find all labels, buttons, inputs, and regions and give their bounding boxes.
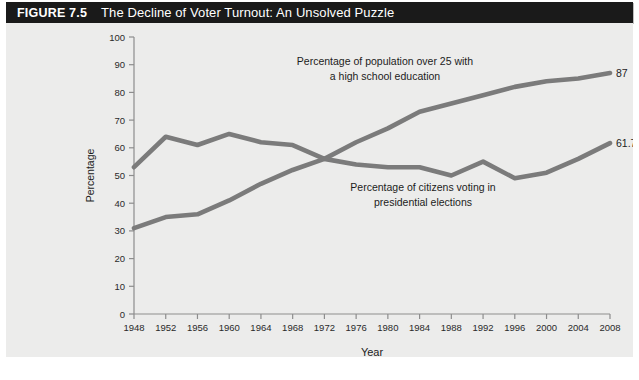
x-tick-label: 1976 [346,322,367,333]
x-tick-label: 1980 [377,322,398,333]
line-chart-svg: 0102030405060708090100Percentage 1948195… [6,23,633,357]
x-tick-label: 1968 [282,322,303,333]
education-annotation-line1: Percentage of population over 25 with [297,55,473,67]
y-tick-label: 30 [114,225,125,236]
series-line-0 [134,73,610,228]
series-line-1 [134,134,610,178]
turnout-annotation-line2: presidential elections [374,196,472,208]
y-tick-label: 80 [114,87,125,98]
y-tick-label: 20 [114,253,125,264]
x-tick-label: 1956 [187,322,208,333]
figure-container: FIGURE 7.5 The Decline of Voter Turnout:… [0,0,639,380]
figure-number-label: FIGURE 7.5 [17,6,87,20]
figure-title-label: The Decline of Voter Turnout: An Unsolve… [101,5,394,20]
y-tick-label: 50 [114,170,125,181]
x-tick-label: 1964 [250,322,271,333]
x-tick-label: 2000 [536,322,557,333]
x-tick-label: 2004 [568,322,589,333]
series-endpoint-label-0: 87 [616,67,628,79]
x-tick-label: 1988 [441,322,462,333]
series-endpoint-label-1: 61.7 [616,137,633,149]
x-axis-title: Year [361,346,384,357]
y-tick-label: 10 [114,281,125,292]
turnout-annotation-line1: Percentage of citizens voting in [350,181,495,193]
x-tick-label: 1984 [409,322,430,333]
y-tick-label: 0 [120,309,125,320]
chart-panel: 0102030405060708090100Percentage 1948195… [6,23,633,357]
y-tick-label: 60 [114,142,125,153]
x-tick-label: 1948 [123,322,144,333]
y-tick-label: 70 [114,115,125,126]
x-tick-label: 1952 [155,322,176,333]
x-tick-label: 1992 [472,322,493,333]
figure-header-bar: FIGURE 7.5 The Decline of Voter Turnout:… [6,2,633,23]
y-tick-label: 40 [114,198,125,209]
chart-series [134,73,610,228]
clipped-caption-text [8,368,428,377]
x-axis: 1948195219561960196419681972197619801984… [123,314,620,357]
y-tick-label: 100 [109,32,125,43]
x-tick-label: 1960 [219,322,240,333]
y-axis-title: Percentage [84,148,96,202]
x-tick-label: 2008 [599,322,620,333]
y-tick-label: 90 [114,59,125,70]
education-annotation-line2: a high school education [330,70,440,82]
x-tick-label: 1996 [504,322,525,333]
y-axis: 0102030405060708090100Percentage [84,32,134,320]
x-tick-label: 1972 [314,322,335,333]
